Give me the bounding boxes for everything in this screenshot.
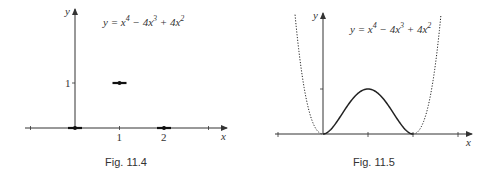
x-axis-label: x: [220, 130, 226, 142]
fig-11-4: 121 y x y = x4 − 4x3 + 4x2 Fig. 11.4: [25, 5, 227, 168]
curve-solid: [323, 89, 413, 134]
y-axis-label: y: [64, 5, 70, 17]
curve-dotted: [295, 15, 323, 134]
x-tick-label: 2: [161, 131, 167, 143]
y-tick-label: 1: [65, 77, 71, 89]
fig-11-5: y x y = x4 − 4x3 + 4x2 Fig. 11.5: [275, 9, 472, 168]
equation-label: y = x4 − 4x3 + 4x2: [102, 14, 184, 28]
figure-canvas: 121 y x y = x4 − 4x3 + 4x2 Fig. 11.4 y x…: [0, 0, 493, 178]
data-point: [118, 81, 122, 85]
equation-label: y = x4 − 4x3 + 4x2: [349, 21, 431, 35]
data-point: [162, 126, 166, 130]
y-axis-label: y: [312, 9, 318, 21]
figure-caption: Fig. 11.4: [105, 156, 147, 168]
x-axis-label: x: [465, 136, 471, 148]
data-point: [73, 126, 77, 130]
figure-caption: Fig. 11.5: [353, 156, 395, 168]
x-tick-label: 1: [117, 131, 123, 143]
